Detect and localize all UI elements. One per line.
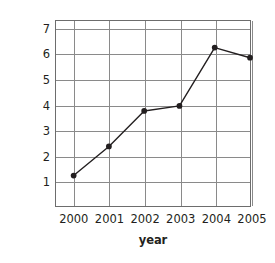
y-tick-label-7: 7	[43, 22, 50, 36]
x-axis-title: year	[55, 233, 251, 247]
y-tick-label-3: 3	[43, 124, 50, 138]
x-tick-label-2001: 2001	[95, 212, 124, 226]
x-tick-label-2004: 2004	[202, 212, 231, 226]
data-point-2001	[106, 144, 112, 150]
series-line	[74, 48, 250, 176]
profit-line-series	[56, 21, 250, 206]
gridline-x-2005	[252, 21, 253, 206]
y-tick-label-2: 2	[43, 150, 50, 164]
y-tick-label-5: 5	[43, 73, 50, 87]
y-tick-label-4: 4	[43, 99, 50, 113]
x-tick-label-2003: 2003	[166, 212, 195, 226]
data-point-2005	[247, 55, 253, 61]
y-tick-label-6: 6	[43, 47, 50, 61]
x-tick-label-2005: 2005	[237, 212, 266, 226]
data-point-2004	[212, 45, 218, 51]
y-tick-label-1: 1	[43, 175, 50, 189]
data-point-2003	[177, 103, 183, 109]
plot-area: 1234567 200020012002200320042005	[55, 20, 251, 207]
data-point-2002	[141, 108, 147, 114]
x-tick-label-2000: 2000	[59, 212, 88, 226]
line-chart: profit in million USD 1234567 2000200120…	[0, 0, 275, 263]
data-point-2000	[71, 173, 77, 179]
x-tick-label-2002: 2002	[130, 212, 159, 226]
